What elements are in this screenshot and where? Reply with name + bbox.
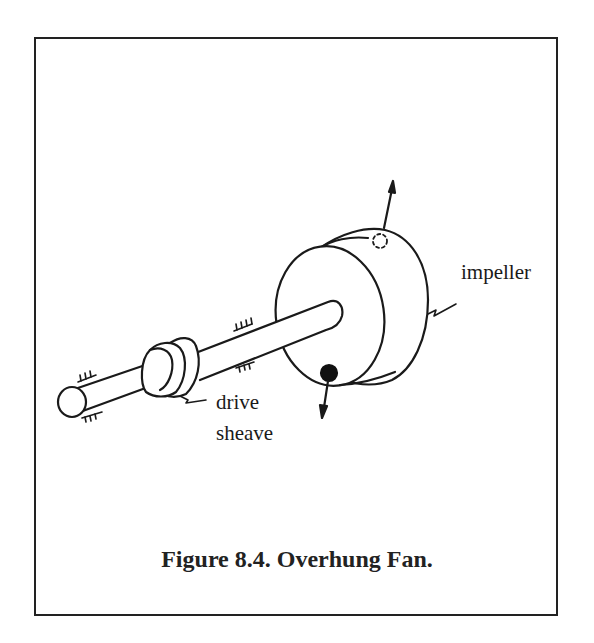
drive-sheave	[142, 338, 206, 403]
hidden-unbalance-mass	[373, 234, 387, 248]
drive-sheave-label-line1: drive	[216, 392, 259, 413]
drive-sheave-label-line2: sheave	[216, 423, 273, 444]
force-arrow-up-icon	[384, 181, 395, 228]
force-arrow-down-icon	[320, 381, 328, 418]
impeller	[267, 229, 456, 393]
figure-caption: Figure 8.4. Overhung Fan.	[0, 546, 594, 573]
unbalance-mass	[321, 365, 337, 381]
impeller-label: impeller	[461, 262, 531, 283]
